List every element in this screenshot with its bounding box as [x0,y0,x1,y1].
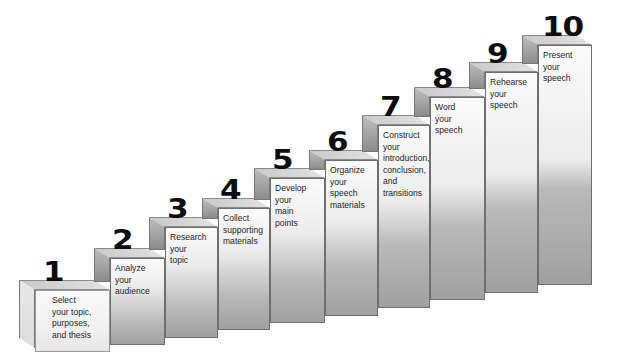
step-number: 6 [327,128,347,155]
step-number: 7 [380,93,400,120]
step-number: 1 [43,258,63,285]
step-number: 10 [542,13,583,40]
speech-steps-staircase: 1Select your topic, purposes, and thesis… [0,0,621,363]
step-label: Present your speech [543,50,602,85]
step-number: 4 [220,176,240,203]
step-number: 9 [487,40,507,67]
step-side-face [19,280,35,348]
step-number: 3 [167,195,187,222]
step-number: 5 [272,146,292,173]
step-number: 8 [432,65,452,92]
step-number: 2 [112,226,132,253]
